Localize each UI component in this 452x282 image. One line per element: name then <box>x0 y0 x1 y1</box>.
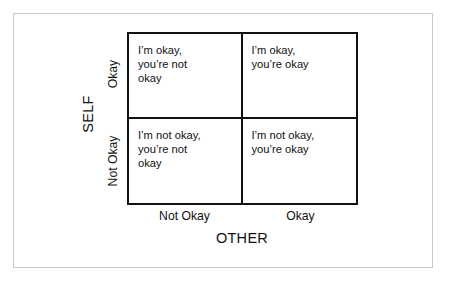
x-axis-tick-not-okay: Not Okay <box>127 209 242 223</box>
quadrant-cell-bottom-right: I’m not okay, you’re okay <box>243 119 357 204</box>
x-axis-title: OTHER <box>172 230 312 246</box>
quadrant-cell-top-left-text: I’m okay, you’re not okay <box>138 43 233 85</box>
y-axis-tick-not-okay: Not Okay <box>105 127 121 195</box>
quadrant-matrix: I’m okay, you’re not okay I’m okay, you’… <box>127 32 358 205</box>
quadrant-cell-bottom-left-text: I’m not okay, you’re not okay <box>138 128 233 170</box>
y-axis-tick-okay: Okay <box>105 49 121 99</box>
ok-corral-figure: SELF Okay Not Okay I’m okay, you’re not … <box>0 0 452 282</box>
quadrant-cell-bottom-left: I’m not okay, you’re not okay <box>129 119 243 204</box>
x-axis-tick-okay: Okay <box>243 209 358 223</box>
y-axis-title: SELF <box>79 92 97 136</box>
quadrant-cell-top-left: I’m okay, you’re not okay <box>129 34 243 119</box>
quadrant-cell-bottom-right-text: I’m not okay, you’re okay <box>252 128 349 156</box>
quadrant-cell-top-right: I’m okay, you’re okay <box>243 34 357 119</box>
quadrant-cell-top-right-text: I’m okay, you’re okay <box>252 43 349 71</box>
